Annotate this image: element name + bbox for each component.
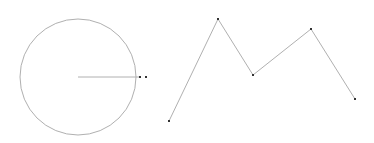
radius-point — [139, 76, 141, 78]
vertex-point — [310, 28, 312, 30]
zigzag-polyline — [169, 19, 355, 121]
polyline-points — [168, 18, 356, 122]
vertex-point — [252, 74, 254, 76]
radius-points — [139, 76, 147, 78]
vertex-point — [354, 98, 356, 100]
vertex-point — [168, 120, 170, 122]
drawing-canvas — [0, 0, 374, 143]
vertex-point — [217, 18, 219, 20]
radius-point — [145, 76, 147, 78]
